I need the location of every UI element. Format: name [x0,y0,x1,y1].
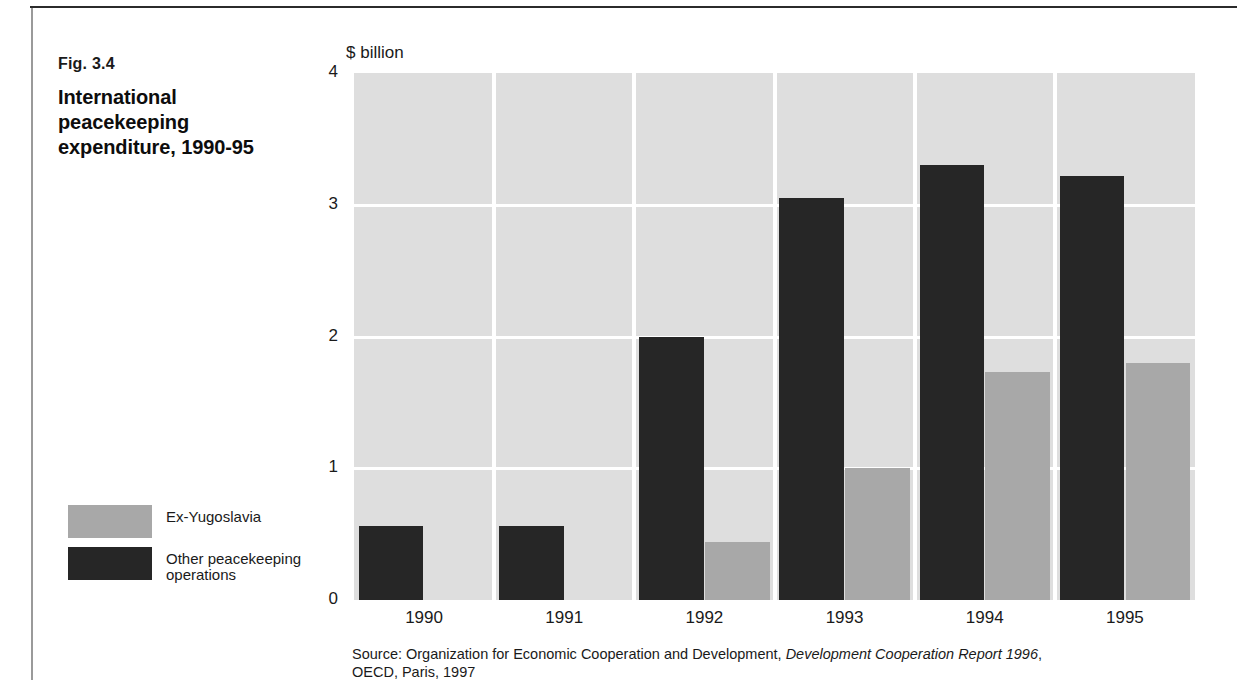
bar-group-1995 [1055,73,1195,600]
page-top-rule [30,6,1237,8]
y-tick-2: 2 [302,326,338,346]
legend-swatch-ex-yugoslavia [68,505,152,538]
bar-group-1992 [634,73,774,600]
x-tick-1993: 1993 [775,608,915,628]
x-tick-1991: 1991 [494,608,634,628]
x-tick-1995: 1995 [1055,608,1195,628]
bar-1995-other-operations [1060,176,1124,600]
x-tick-1992: 1992 [634,608,774,628]
x-tick-1990: 1990 [354,608,494,628]
bar-1995-ex-yugoslavia [1126,363,1190,600]
source-suffix: , [1038,646,1042,662]
bar-group-1990 [354,73,494,600]
y-tick-1: 1 [302,457,338,477]
bar-group-1991 [494,73,634,600]
page-left-rule [31,8,33,680]
bar-1992-other-operations [639,337,703,601]
y-tick-3: 3 [302,194,338,214]
legend-swatch-other-operations [68,547,152,580]
legend-label-other-operations: Other peacekeeping operations [166,547,301,583]
bar-1992-ex-yugoslavia [705,542,769,600]
legend-item-ex-yugoslavia: Ex-Yugoslavia [68,505,318,538]
bar-1994-ex-yugoslavia [985,372,1049,600]
chart-plot-inner [354,73,1195,600]
bar-1993-other-operations [779,198,843,600]
legend-item-other-operations: Other peacekeeping operations [68,547,318,583]
legend-label-ex-yugoslavia: Ex-Yugoslavia [166,505,261,525]
figure-caption: Fig. 3.4 International peacekeeping expe… [58,55,298,159]
bar-1993-ex-yugoslavia [845,468,909,600]
y-axis-unit-label: $ billion [346,43,404,63]
source-note: Source: Organization for Economic Cooper… [352,645,1212,681]
y-tick-0: 0 [302,589,338,609]
source-line-2: OECD, Paris, 1997 [352,664,475,680]
figure-page: Fig. 3.4 International peacekeeping expe… [0,0,1237,688]
chart-legend: Ex-Yugoslavia Other peacekeeping operati… [68,505,318,592]
bar-group-1994 [915,73,1055,600]
source-prefix: Source: Organization for Economic Cooper… [352,646,786,662]
source-publication-title: Development Cooperation Report 1996 [786,646,1038,662]
chart-plot-area [354,73,1195,600]
bar-1994-other-operations [920,165,984,600]
y-tick-4: 4 [302,62,338,82]
figure-title: International peacekeeping expenditure, … [58,85,298,159]
bar-1991-other-operations [499,526,563,600]
figure-number: Fig. 3.4 [58,55,298,73]
bar-group-1993 [775,73,915,600]
x-tick-1994: 1994 [915,608,1055,628]
bar-1990-other-operations [359,526,423,600]
